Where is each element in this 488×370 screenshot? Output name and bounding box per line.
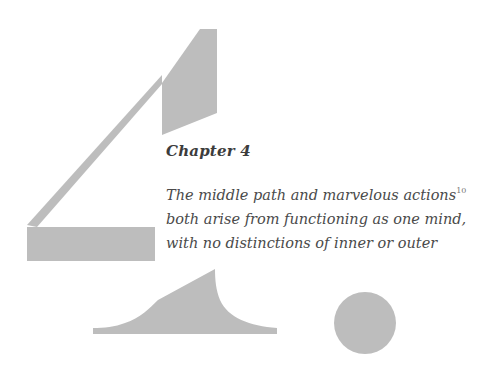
footnote-marker[interactable]: 10 xyxy=(456,186,466,195)
chapter-title: Chapter 4 xyxy=(166,142,251,160)
numeral-crossbar xyxy=(27,227,155,261)
epigraph-line-1: The middle path and marvelous actions xyxy=(166,187,456,203)
epigraph: The middle path and marvelous actions10 … xyxy=(166,183,486,255)
numeral-foot-shape xyxy=(93,269,277,334)
epigraph-line-2: both arise from functioning as one mind, xyxy=(166,211,466,227)
epigraph-line-3: with no distinctions of inner or outer xyxy=(166,235,437,251)
decorative-dot xyxy=(334,292,396,354)
numeral-diagonal-stroke xyxy=(27,75,162,227)
numeral-upper-block xyxy=(162,29,217,135)
